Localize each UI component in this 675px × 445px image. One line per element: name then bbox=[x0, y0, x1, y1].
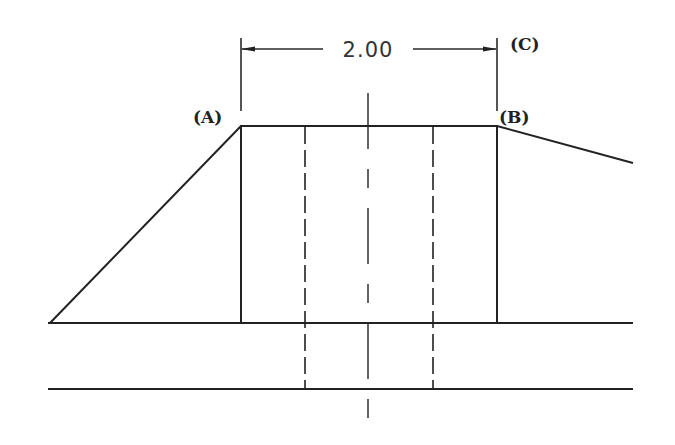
slope-left bbox=[50, 126, 241, 323]
label-a: (A) bbox=[193, 107, 222, 127]
technical-drawing: 2.00 (C) (A) (B) bbox=[0, 0, 675, 445]
label-c: (C) bbox=[510, 34, 540, 54]
dimension-value: 2.00 bbox=[343, 38, 394, 62]
label-b: (B) bbox=[499, 107, 529, 127]
slope-right bbox=[497, 126, 633, 163]
